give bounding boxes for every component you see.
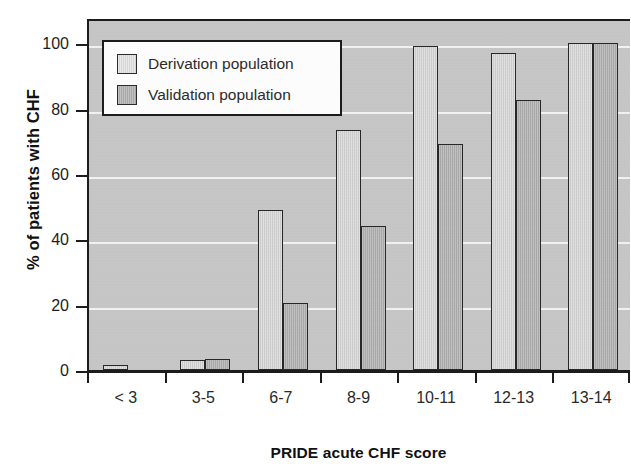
bar bbox=[438, 144, 463, 370]
y-axis-tick bbox=[76, 110, 87, 112]
legend-swatch-icon bbox=[117, 85, 137, 105]
y-axis-tick-label: 100 bbox=[21, 35, 69, 53]
bar bbox=[568, 43, 593, 370]
y-axis-tick-label: 40 bbox=[21, 231, 69, 249]
y-axis-tick bbox=[76, 44, 87, 46]
bar bbox=[361, 226, 386, 370]
bar bbox=[336, 130, 361, 370]
y-axis-tick-label: 80 bbox=[21, 101, 69, 119]
legend-label: Validation population bbox=[148, 86, 291, 104]
x-axis-line bbox=[76, 371, 630, 373]
y-axis-tick-label: 60 bbox=[21, 166, 69, 184]
bar bbox=[205, 359, 230, 370]
x-axis-tick-label: < 3 bbox=[81, 389, 171, 407]
x-axis-tick bbox=[628, 372, 630, 383]
x-axis-tick-label: 13-14 bbox=[546, 389, 631, 407]
legend-swatch-icon bbox=[117, 54, 137, 74]
y-axis-tick-label: 0 bbox=[21, 362, 69, 380]
x-axis-tick-label: 8-9 bbox=[314, 389, 404, 407]
chart-figure: % of patients with CHF 020406080100 Deri… bbox=[0, 0, 631, 466]
x-axis-tick bbox=[165, 372, 167, 383]
bar bbox=[491, 53, 516, 370]
y-axis-tick-label: 20 bbox=[21, 297, 69, 315]
bar bbox=[103, 365, 128, 370]
legend-label: Derivation population bbox=[148, 55, 294, 73]
x-axis-tick-label: 6-7 bbox=[236, 389, 326, 407]
bar bbox=[593, 43, 618, 370]
x-axis-tick bbox=[320, 372, 322, 383]
x-axis-tick bbox=[397, 372, 399, 383]
x-axis-tick-label: 3-5 bbox=[158, 389, 248, 407]
x-axis-tick bbox=[242, 372, 244, 383]
bar bbox=[283, 303, 308, 370]
bar bbox=[516, 100, 541, 370]
x-axis-tick-label: 10-11 bbox=[391, 389, 481, 407]
chart-legend: Derivation populationValidation populati… bbox=[102, 40, 342, 116]
y-axis-tick bbox=[76, 175, 87, 177]
legend-item: Validation population bbox=[117, 79, 340, 110]
x-axis-tick bbox=[552, 372, 554, 383]
bar bbox=[180, 360, 205, 370]
x-axis-title: PRIDE acute CHF score bbox=[86, 444, 631, 462]
x-axis-tick-label: 12-13 bbox=[469, 389, 559, 407]
bar bbox=[413, 46, 438, 370]
x-axis-tick bbox=[475, 372, 477, 383]
bar bbox=[258, 210, 283, 370]
legend-item: Derivation population bbox=[117, 48, 340, 79]
y-axis-tick bbox=[76, 306, 87, 308]
y-axis-tick bbox=[76, 240, 87, 242]
x-axis-tick bbox=[87, 372, 89, 383]
